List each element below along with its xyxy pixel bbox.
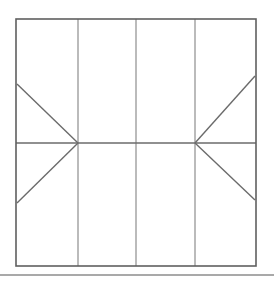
figure-canvas [0, 0, 274, 282]
line-diagram-svg [0, 0, 274, 282]
figure-background [0, 0, 274, 282]
